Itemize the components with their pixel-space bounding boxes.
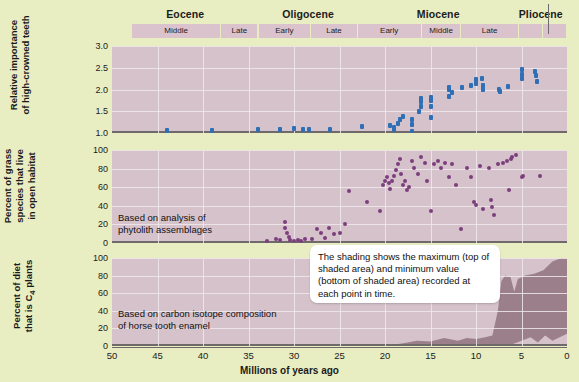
data-point [385,175,389,179]
data-point [381,183,385,187]
epoch-label-miocene: Miocene [358,6,519,22]
data-point [429,115,433,120]
data-point [429,209,433,213]
data-point [423,161,427,165]
stage-cell-7 [519,24,544,38]
data-point [310,237,314,241]
data-point [405,188,409,192]
data-point [481,207,485,211]
data-point [210,128,214,133]
data-point [460,85,464,90]
data-point [459,227,463,231]
panel-relative-importance-high-crowned-teeth [112,46,567,133]
shading-explanation-callout: The shading shows the maximum (top of sh… [310,245,500,303]
data-point [347,189,351,193]
data-point [403,179,407,183]
data-point [401,114,405,119]
stage-cell-8 [543,24,567,38]
data-point [429,95,433,100]
data-point [256,127,260,132]
data-point [392,127,396,132]
data-point [474,81,478,86]
epoch-label-oligocene: Oligocene [259,6,358,22]
data-point [496,162,500,166]
x-tick-label: 5 [510,351,534,361]
y-tick-label: 2.5 [82,64,108,73]
data-point [274,237,278,241]
data-point [410,117,414,122]
gridline-vertical [249,258,250,346]
x-tick-label: 35 [237,351,261,361]
data-point [390,179,394,183]
x-tick-label: 45 [146,351,170,361]
gridline-vertical [522,258,523,346]
data-point [429,104,433,109]
data-point [407,185,411,189]
data-point [410,129,414,133]
y-tick-label: 0 [82,342,108,351]
epoch-stage-row: MiddleLateEarlyLateEarlyMiddleLate [0,24,579,38]
x-tick-label: 10 [464,351,488,361]
data-point [303,237,307,241]
data-point [365,200,369,204]
x-axis-line [112,347,567,348]
gridline-vertical [203,258,204,346]
data-point [343,222,347,226]
y-tick-label: 80 [82,165,108,174]
gridline-vertical [476,150,477,243]
stage-cell-4: Early [358,24,422,38]
data-point [419,104,423,109]
gridline-vertical [385,150,386,243]
data-point [360,124,364,129]
gridline-vertical [294,258,295,346]
y-tick-label: 3.0 [82,42,108,51]
y-tick-label: 1.5 [82,107,108,116]
x-axis-title: Millions of years ago [0,365,579,376]
data-point [392,174,396,178]
gridline-vertical [294,46,295,133]
stage-cell-1: Late [221,24,258,38]
data-point [315,227,319,231]
data-point [410,122,414,127]
data-point [416,172,420,176]
data-point [436,159,440,163]
data-point [394,168,398,172]
data-point [489,198,493,202]
data-point [307,127,311,132]
data-point [490,205,494,209]
gridline-vertical [249,150,250,243]
data-point [417,109,421,114]
data-point [419,155,423,159]
data-point [535,79,539,84]
y-tick-label: 60 [82,183,108,192]
data-point [465,166,469,170]
data-point [396,162,400,166]
data-point [419,96,423,101]
data-point [432,162,436,166]
stage-cell-6: Late [461,24,518,38]
data-point [327,226,331,230]
data-point [283,226,287,230]
data-point [328,127,332,132]
data-point [538,174,542,178]
data-point [480,76,484,81]
data-point [332,232,336,236]
epoch-label-eocene: Eocene [112,6,259,22]
figure-root: EoceneOligoceneMiocenePliocene MiddleLat… [0,0,579,382]
gridline-vertical [249,46,250,133]
y-tick-label: 80 [82,272,108,281]
y-tick-label: 2.0 [82,86,108,95]
y-tick-label: 40 [82,307,108,316]
data-point [507,188,511,192]
data-point [498,89,502,94]
data-point [323,236,327,240]
y-tick-label: 100 [82,146,108,155]
y-tick-label: 20 [82,220,108,229]
data-point [378,209,382,213]
data-point [521,174,525,178]
data-point [450,90,454,95]
data-point [388,123,392,128]
gridline-vertical [522,46,523,133]
gridline-vertical [385,46,386,133]
data-point [292,126,296,131]
